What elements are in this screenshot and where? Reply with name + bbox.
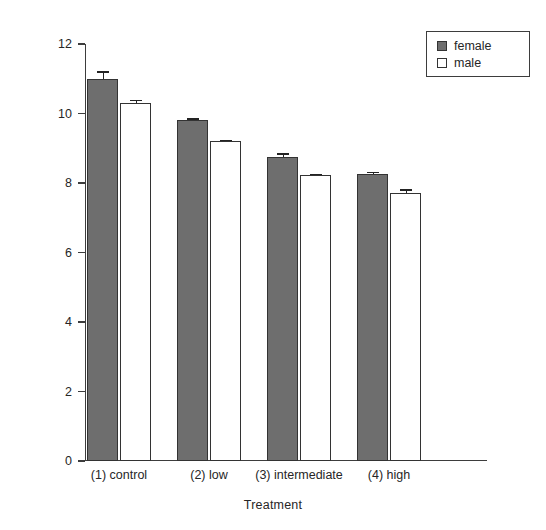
legend-swatch-female-icon [437,41,447,51]
y-axis-tick-label: 6 [32,246,72,260]
y-axis-tick-label: 12 [32,37,72,51]
bar-male-3 [300,175,331,461]
error-bar-cap [220,140,232,142]
error-bar-cap [187,118,199,120]
legend-item-female: female [437,37,529,54]
bar-female-2 [177,120,208,461]
category-label-2: (2) low [190,468,228,482]
y-axis-tick [78,113,85,114]
y-axis-tick [78,460,85,461]
legend-swatch-male-icon [437,58,447,68]
error-bar-cap [277,153,289,155]
bar-male-1 [120,103,151,461]
bar-male-2 [210,141,241,461]
y-axis-tick [78,391,85,392]
error-bar-cap [97,71,109,73]
y-axis-tick-label: 0 [32,454,72,468]
error-bar-cap [310,174,322,176]
category-label-4: (4) high [368,468,410,482]
y-axis-tick-label: 4 [32,315,72,329]
error-bar-cap [130,100,142,102]
y-axis-tick [78,321,85,322]
category-label-3: (3) intermediate [255,468,343,482]
bar-female-4 [357,174,388,461]
y-axis-tick [78,43,85,44]
bar-female-1 [87,79,118,461]
plot-area [85,44,487,461]
legend-item-male: male [437,54,529,71]
legend-label-male: male [454,56,481,70]
error-bar-cap [400,189,412,191]
y-axis-tick-label: 10 [32,107,72,121]
y-axis-tick [78,252,85,253]
bar-chart-figure: Response 024681012 (1) control(2) low(3)… [0,0,546,530]
y-axis-tick [78,182,85,183]
legend: female male [426,31,530,77]
y-axis-tick-label: 2 [32,385,72,399]
bar-female-3 [267,157,298,461]
y-axis-tick-label: 8 [32,176,72,190]
error-bar-cap [367,172,379,174]
bar-male-4 [390,193,421,461]
legend-label-female: female [454,39,492,53]
x-axis-title: Treatment [0,498,546,512]
category-label-1: (1) control [91,468,147,482]
